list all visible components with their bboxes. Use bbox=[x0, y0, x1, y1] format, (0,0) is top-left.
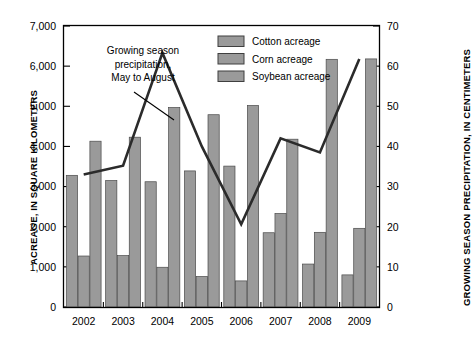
plot-area: 01,0002,0003,0004,0005,0006,0007,000 010… bbox=[0, 0, 475, 362]
bar bbox=[342, 275, 353, 307]
bar bbox=[169, 107, 180, 307]
legend-swatch bbox=[218, 36, 244, 47]
legend-label: Soybean acreage bbox=[252, 71, 331, 82]
bar bbox=[287, 139, 298, 307]
y-tick-label-right: 20 bbox=[387, 221, 399, 233]
x-tick-label: 2003 bbox=[111, 315, 135, 327]
bar bbox=[354, 228, 365, 307]
y-tick-label-left: 6,000 bbox=[30, 60, 56, 72]
bar bbox=[145, 182, 156, 307]
bar bbox=[66, 175, 77, 307]
annotation-line: precipitation, bbox=[115, 59, 172, 70]
y-tick-label-left: 1,000 bbox=[30, 261, 56, 273]
y-tick-label-right: 70 bbox=[387, 20, 399, 32]
x-tick-label: 2004 bbox=[151, 315, 175, 327]
y-tick-label-left: 2,000 bbox=[30, 221, 56, 233]
x-tick-label: 2002 bbox=[72, 315, 96, 327]
bar bbox=[208, 115, 219, 307]
bar bbox=[314, 232, 325, 307]
x-tick-label: 2005 bbox=[190, 315, 214, 327]
bar bbox=[157, 267, 168, 307]
bar bbox=[303, 264, 314, 307]
bar bbox=[196, 276, 207, 307]
y-tick-label-left: 0 bbox=[50, 301, 56, 313]
y-tick-label-right: 30 bbox=[387, 180, 399, 192]
legend-swatch bbox=[218, 54, 244, 65]
bar bbox=[184, 171, 195, 307]
bar bbox=[129, 137, 140, 307]
y-tick-label-right: 10 bbox=[387, 261, 399, 273]
y-tick-label-right: 0 bbox=[387, 301, 393, 313]
annotation-line: May to August bbox=[111, 72, 175, 83]
bar bbox=[326, 59, 337, 307]
y-tick-label-left: 3,000 bbox=[30, 180, 56, 192]
bar bbox=[78, 256, 89, 307]
annotation-line: Growing season bbox=[107, 45, 179, 56]
y-tick-label-left: 7,000 bbox=[30, 20, 56, 32]
legend: Cotton acreageCorn acreageSoybean acreag… bbox=[218, 36, 331, 82]
chart-figure: ACREAGE, IN SQUARE KILOMETERS GROWING SE… bbox=[0, 0, 475, 362]
y-tick-label-right: 60 bbox=[387, 60, 399, 72]
bar bbox=[366, 59, 377, 307]
bar bbox=[90, 141, 101, 307]
x-tick-label: 2008 bbox=[308, 315, 332, 327]
bar bbox=[236, 281, 247, 307]
bar bbox=[263, 233, 274, 307]
legend-swatch bbox=[218, 71, 244, 82]
y-tick-label-left: 5,000 bbox=[30, 100, 56, 112]
legend-label: Cotton acreage bbox=[252, 36, 321, 47]
x-tick-label: 2006 bbox=[230, 315, 254, 327]
bar bbox=[224, 166, 235, 307]
bar bbox=[106, 181, 117, 307]
x-tick-label: 2007 bbox=[269, 315, 293, 327]
x-tick-label: 2009 bbox=[348, 315, 372, 327]
y-tick-label-right: 40 bbox=[387, 140, 399, 152]
legend-label: Corn acreage bbox=[252, 54, 313, 65]
bar bbox=[117, 256, 128, 307]
y-tick-label-right: 50 bbox=[387, 100, 399, 112]
y-tick-label-left: 4,000 bbox=[30, 140, 56, 152]
bar bbox=[275, 213, 286, 307]
